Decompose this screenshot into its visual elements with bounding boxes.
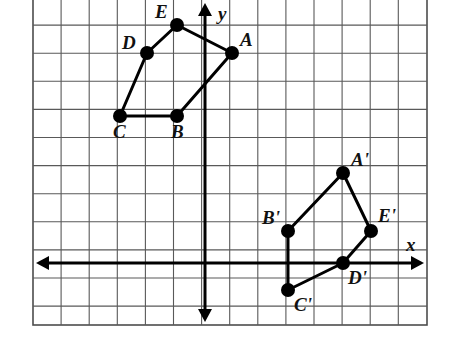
vertex-label: C' bbox=[294, 295, 312, 314]
vertex-label: B bbox=[171, 122, 184, 141]
vertex-dot bbox=[281, 283, 295, 297]
vertex-label: E bbox=[155, 2, 168, 21]
vertex-dot bbox=[336, 166, 350, 180]
vertex-dot bbox=[364, 224, 378, 238]
vertex-label: B' bbox=[262, 208, 280, 227]
vertex-label: A bbox=[240, 30, 253, 49]
vertex-dot bbox=[170, 18, 184, 32]
y-axis-label: y bbox=[218, 4, 226, 23]
coordinate-plane-figure: ABCDEA'B'C'D'E' x y bbox=[0, 0, 452, 347]
figure-canvas bbox=[0, 0, 452, 347]
vertex-dot bbox=[281, 224, 295, 238]
vertex-label: D bbox=[122, 33, 136, 52]
vertex-dot bbox=[140, 46, 154, 60]
vertex-label: D' bbox=[348, 268, 367, 287]
vertex-label: A' bbox=[351, 150, 369, 169]
x-axis-label: x bbox=[406, 235, 416, 254]
vertex-label: C bbox=[113, 122, 126, 141]
vertex-label: E' bbox=[378, 206, 396, 225]
vertex-dot bbox=[225, 46, 239, 60]
